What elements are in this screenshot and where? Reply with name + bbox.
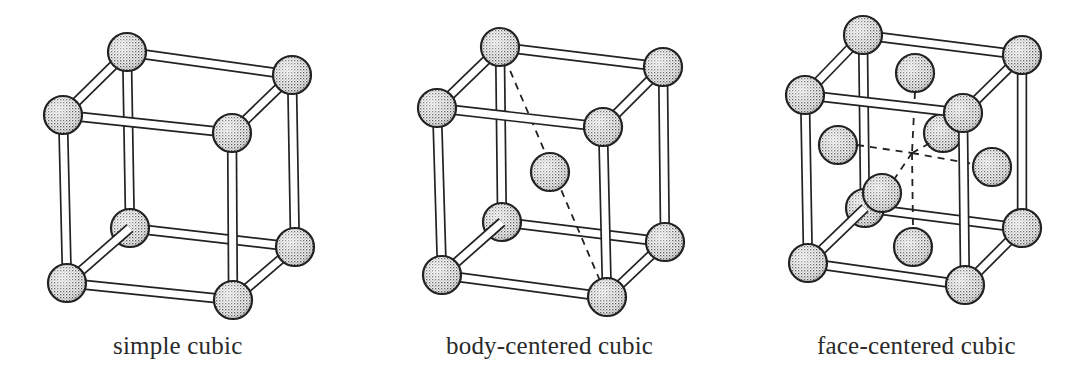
dashed-guide-line bbox=[912, 92, 915, 153]
atom-back-top-left bbox=[844, 16, 882, 54]
rod-top-front bbox=[805, 95, 963, 113]
rod-front-right-vertical bbox=[603, 127, 607, 297]
front-face-atom bbox=[863, 174, 901, 212]
rod-back-left-vertical bbox=[863, 35, 865, 208]
rod-back-right-vertical bbox=[663, 67, 665, 242]
atom-back-bottom-right bbox=[646, 223, 684, 261]
body-center-atom bbox=[531, 153, 569, 191]
atom-back-top-right bbox=[1003, 36, 1041, 74]
rod-back-right-vertical bbox=[292, 75, 295, 247]
atom-front-top-right bbox=[213, 114, 251, 152]
atom-front-bottom-right bbox=[946, 266, 984, 304]
atom-back-bottom-right bbox=[276, 228, 314, 266]
atom-front-bottom-right bbox=[588, 278, 626, 316]
atom-front-top-right bbox=[584, 108, 622, 146]
left-face-atom bbox=[819, 126, 857, 164]
atom-front-bottom-left bbox=[423, 256, 461, 294]
dashed-guide-line bbox=[912, 143, 930, 153]
face-centered-cubic-caption: face-centered cubic bbox=[817, 332, 1016, 360]
rod-back-left-vertical bbox=[127, 52, 130, 228]
rod-top-front bbox=[437, 108, 603, 127]
rod-bottom-back bbox=[130, 228, 295, 247]
simple-cubic-caption: simple cubic bbox=[113, 332, 242, 360]
simple-cubic-lattice bbox=[44, 33, 314, 319]
body-centered-cubic-lattice bbox=[418, 28, 684, 316]
bottom-face-atom bbox=[894, 228, 932, 266]
right-face-atom bbox=[973, 148, 1011, 186]
rod-top-back bbox=[863, 35, 1022, 55]
body-centered-cubic-caption: body-centered cubic bbox=[446, 332, 653, 360]
rod-front-left-vertical bbox=[63, 115, 67, 283]
top-face-atom bbox=[896, 54, 934, 92]
atom-front-top-left bbox=[418, 89, 456, 127]
dashed-guide-line bbox=[895, 153, 912, 178]
atom-back-top-right bbox=[273, 56, 311, 94]
rod-bottom-back bbox=[502, 222, 665, 242]
atom-back-top-left bbox=[481, 28, 519, 66]
rod-front-right-vertical bbox=[232, 133, 233, 300]
atom-back-bottom-right bbox=[1003, 209, 1041, 247]
atom-front-bottom-left bbox=[48, 264, 86, 302]
rod-bottom-front bbox=[808, 263, 965, 285]
atom-front-bottom-left bbox=[789, 244, 827, 282]
rod-front-left-vertical bbox=[805, 95, 808, 263]
atom-front-top-left bbox=[786, 76, 824, 114]
atom-front-top-right bbox=[944, 94, 982, 132]
rod-front-right-vertical bbox=[963, 113, 965, 285]
rod-back-left-vertical bbox=[500, 47, 502, 222]
rod-top-back bbox=[127, 52, 292, 75]
atom-front-top-left bbox=[44, 96, 82, 134]
rod-bottom-front bbox=[442, 275, 607, 297]
rod-top-back bbox=[500, 47, 663, 67]
rod-front-left-vertical bbox=[437, 108, 442, 275]
atom-back-top-right bbox=[644, 48, 682, 86]
atom-back-top-left bbox=[108, 33, 146, 71]
atom-front-bottom-right bbox=[214, 281, 252, 319]
face-centered-cubic-lattice bbox=[786, 16, 1041, 304]
rod-bottom-front bbox=[67, 283, 233, 300]
rod-top-front bbox=[63, 115, 232, 133]
